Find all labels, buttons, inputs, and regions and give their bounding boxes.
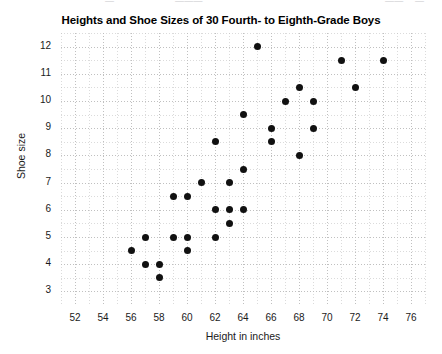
data-point <box>212 234 219 241</box>
data-point <box>296 84 303 91</box>
data-point <box>170 234 177 241</box>
y-tick-label: 10 <box>21 94 51 105</box>
data-point <box>184 193 191 200</box>
x-tick-label: 76 <box>396 312 426 323</box>
data-point <box>254 43 261 50</box>
y-tick-label: 3 <box>21 284 51 295</box>
grid-line-y-major <box>61 237 425 238</box>
x-tick-label: 52 <box>60 312 90 323</box>
grid-line-y-minor <box>61 251 425 252</box>
chart-title: Heights and Shoe Sizes of 30 Fourth- to … <box>0 14 442 26</box>
data-point <box>170 193 177 200</box>
scatter-plot-figure: — ——— —— — — —— Heights and Shoe Sizes o… <box>0 0 442 354</box>
data-point <box>142 234 149 241</box>
y-tick-label: 6 <box>21 203 51 214</box>
data-point <box>240 111 247 118</box>
y-tick-label: 4 <box>21 257 51 268</box>
data-point <box>212 138 219 145</box>
grid-line-y-minor <box>61 60 425 61</box>
grid-line-y-major <box>61 264 425 265</box>
data-point <box>128 247 135 254</box>
x-tick-label: 58 <box>144 312 174 323</box>
data-point <box>268 125 275 132</box>
x-tick-label: 60 <box>172 312 202 323</box>
data-point <box>338 57 345 64</box>
data-point <box>184 247 191 254</box>
data-point <box>156 274 163 281</box>
grid-line-y-major <box>61 47 425 48</box>
x-axis-label: Height in inches <box>61 330 425 342</box>
x-tick-label: 68 <box>284 312 314 323</box>
x-tick-label: 54 <box>88 312 118 323</box>
data-point <box>310 125 317 132</box>
y-tick-label: 5 <box>21 230 51 241</box>
x-tick-label: 64 <box>228 312 258 323</box>
data-point <box>268 138 275 145</box>
grid-line-y-minor <box>61 33 425 34</box>
data-point <box>198 179 205 186</box>
x-tick-label: 70 <box>312 312 342 323</box>
grid-line-y-major <box>61 183 425 184</box>
data-point <box>380 57 387 64</box>
data-point <box>226 220 233 227</box>
cropped-text-row: — ——— —— — — —— <box>0 0 442 10</box>
data-point <box>240 166 247 173</box>
grid-line-y-major <box>61 74 425 75</box>
grid-line-y-minor <box>61 142 425 143</box>
x-tick-label: 66 <box>256 312 286 323</box>
x-tick-label: 74 <box>368 312 398 323</box>
y-tick-label: 7 <box>21 176 51 187</box>
data-point <box>142 261 149 268</box>
grid-line-y-major <box>61 101 425 102</box>
y-tick-label: 9 <box>21 121 51 132</box>
data-point <box>226 179 233 186</box>
grid-line-y-major <box>61 155 425 156</box>
y-tick-label: 11 <box>21 67 51 78</box>
x-tick-label: 72 <box>340 312 370 323</box>
plot-area <box>61 33 425 305</box>
data-point <box>226 206 233 213</box>
data-point <box>296 152 303 159</box>
y-tick-label: 12 <box>21 40 51 51</box>
x-tick-label: 62 <box>200 312 230 323</box>
data-point <box>184 234 191 241</box>
x-tick-label: 56 <box>116 312 146 323</box>
grid-line-y-minor <box>61 87 425 88</box>
data-point <box>282 98 289 105</box>
data-point <box>310 98 317 105</box>
data-point <box>240 206 247 213</box>
data-point <box>352 84 359 91</box>
grid-line-y-minor <box>61 196 425 197</box>
grid-line-y-major <box>61 128 425 129</box>
grid-line-y-minor <box>61 223 425 224</box>
grid-line-y-major <box>61 291 425 292</box>
grid-line-x-minor <box>425 33 426 305</box>
y-tick-label: 8 <box>21 148 51 159</box>
grid-line-y-minor <box>61 278 425 279</box>
data-point <box>156 261 163 268</box>
data-point <box>212 206 219 213</box>
